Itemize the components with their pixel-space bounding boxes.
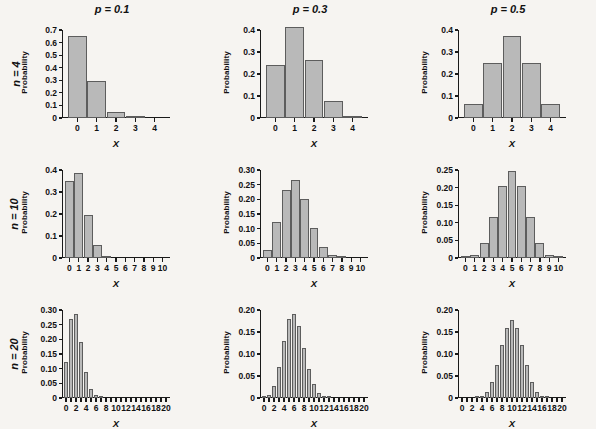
y-tick	[455, 309, 459, 310]
x-tick-label: 16	[537, 403, 546, 413]
x-tick	[556, 398, 557, 402]
x-tick	[491, 398, 492, 402]
x-tick-label: 4	[480, 403, 485, 413]
x-tick-label: 14	[527, 403, 536, 413]
x-tick	[461, 398, 462, 402]
x-tick-label: 10	[507, 403, 516, 413]
plot-area-n20-p05: 00.050.100.150.2002468101214161820	[458, 310, 566, 398]
x-tick-label: 12	[517, 403, 526, 413]
x-tick	[551, 398, 552, 402]
y-tick-label: 0.20	[436, 305, 453, 315]
x-tick	[501, 398, 502, 402]
x-tick	[526, 398, 527, 402]
x-tick	[541, 398, 542, 402]
x-tick	[521, 398, 522, 402]
y-tick	[455, 375, 459, 376]
y-axis-line	[458, 310, 459, 398]
y-tick	[455, 331, 459, 332]
y-tick-label: 0.15	[436, 327, 453, 337]
x-tick-label: 18	[547, 403, 556, 413]
x-tick-label: 6	[490, 403, 495, 413]
x-tick-label: 8	[500, 403, 505, 413]
x-tick	[546, 398, 547, 402]
x-tick	[466, 398, 467, 402]
x-tick	[471, 398, 472, 402]
x-tick	[516, 398, 517, 402]
y-axis-label: Probability	[420, 323, 429, 383]
y-tick-label: 0	[448, 393, 453, 403]
x-tick	[476, 398, 477, 402]
x-tick	[531, 398, 532, 402]
x-tick	[496, 398, 497, 402]
x-tick	[481, 398, 482, 402]
x-tick-label: 20	[557, 403, 566, 413]
bar	[545, 396, 550, 398]
y-tick	[455, 397, 459, 398]
y-tick-label: 0.05	[436, 371, 453, 381]
x-tick	[511, 398, 512, 402]
x-axis-label: X	[458, 418, 566, 429]
x-tick-label: 0	[460, 403, 465, 413]
x-tick	[506, 398, 507, 402]
x-tick	[486, 398, 487, 402]
x-tick-label: 2	[470, 403, 475, 413]
x-tick	[561, 398, 562, 402]
y-tick	[455, 353, 459, 354]
x-tick	[536, 398, 537, 402]
y-tick-label: 0.10	[436, 349, 453, 359]
